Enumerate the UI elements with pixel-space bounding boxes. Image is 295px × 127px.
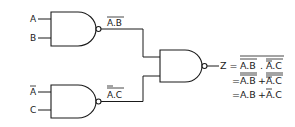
input-label-a-not: A xyxy=(30,87,37,97)
nand-gate-2 xyxy=(51,85,96,118)
eq3-plus: + xyxy=(258,89,266,100)
eq1-dot: . xyxy=(260,60,263,71)
eq3-equals: = xyxy=(232,89,240,100)
eq2-equals: = xyxy=(232,75,240,86)
eq2-ab: A.B xyxy=(240,75,256,86)
nand-bubble-3 xyxy=(202,64,207,69)
eq3-ac: A.C xyxy=(266,89,282,100)
nand-gate-1 xyxy=(51,12,96,46)
eq1-ab: A.B xyxy=(240,60,256,71)
label-g2-output: A.C xyxy=(107,90,122,100)
wire-g1-to-g3 xyxy=(101,29,160,57)
input-label-b: B xyxy=(30,33,36,43)
nand-gate-3 xyxy=(160,50,202,82)
nand-bubble-2 xyxy=(96,99,101,104)
eq1-z: Z = xyxy=(220,60,238,71)
eq1-ac: A.C xyxy=(266,60,282,71)
eq3-ab: A.B xyxy=(240,89,256,100)
label-g1-output: A.B xyxy=(107,18,122,28)
nand-bubble-1 xyxy=(96,27,101,32)
logic-circuit-diagram: A B A C A.B A.C Z = A.B . A.C = A.B + A.… xyxy=(0,0,295,127)
input-label-c: C xyxy=(30,105,36,115)
eq2-plus: + xyxy=(258,75,266,86)
input-label-a: A xyxy=(30,14,37,24)
